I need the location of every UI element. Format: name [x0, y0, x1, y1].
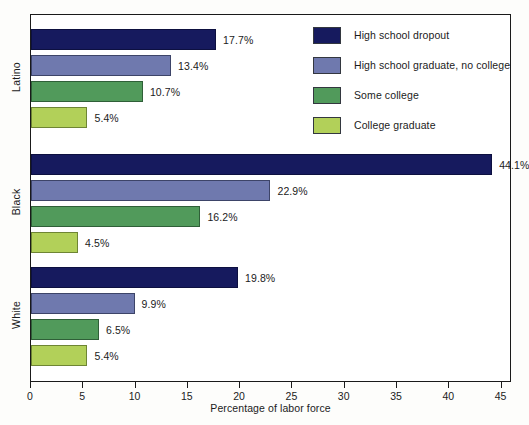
- bar[interactable]: [31, 180, 270, 201]
- x-tick-mark: [135, 382, 136, 388]
- legend-swatch-icon: [313, 117, 341, 134]
- bar-value-label: 22.9%: [277, 185, 307, 197]
- x-tick-label: 0: [27, 390, 33, 402]
- x-tick-label: 20: [233, 390, 245, 402]
- bar-value-label: 16.2%: [207, 211, 237, 223]
- x-tick-mark: [239, 382, 240, 388]
- x-tick-mark: [344, 382, 345, 388]
- bar[interactable]: [31, 107, 87, 128]
- x-tick-mark: [501, 382, 502, 388]
- bar-value-label: 9.9%: [142, 298, 166, 310]
- legend-label: Some college: [354, 89, 419, 101]
- legend-label: High school graduate, no college: [354, 59, 510, 71]
- bar-value-label: 17.7%: [223, 34, 253, 46]
- bar-value-label: 44.1%: [499, 159, 529, 171]
- x-axis-title: Percentage of labor force: [30, 402, 511, 414]
- x-tick-label: 35: [390, 390, 402, 402]
- bar-value-label: 4.5%: [85, 237, 109, 249]
- bar-row: 16.2%: [31, 206, 512, 227]
- bar[interactable]: [31, 293, 135, 314]
- bar-row: 44.1%: [31, 154, 512, 175]
- bar-value-label: 5.4%: [94, 112, 118, 124]
- bar[interactable]: [31, 232, 78, 253]
- bar-value-label: 5.4%: [94, 350, 118, 362]
- bar[interactable]: [31, 206, 200, 227]
- bar[interactable]: [31, 55, 171, 76]
- bar-value-label: 19.8%: [245, 272, 275, 284]
- bar[interactable]: [31, 29, 216, 50]
- x-tick-mark: [30, 382, 31, 388]
- legend-swatch-icon: [313, 57, 341, 74]
- bar[interactable]: [31, 319, 99, 340]
- bar-row: 9.9%: [31, 293, 512, 314]
- bar-row: 19.8%: [31, 267, 512, 288]
- bar[interactable]: [31, 267, 238, 288]
- bar-value-label: 13.4%: [178, 60, 208, 72]
- legend-item[interactable]: High school graduate, no college: [313, 50, 503, 80]
- x-tick-label: 15: [181, 390, 193, 402]
- x-tick-mark: [396, 382, 397, 388]
- x-tick-mark: [187, 382, 188, 388]
- x-tick-mark: [291, 382, 292, 388]
- bar-value-label: 6.5%: [106, 324, 130, 336]
- bar-value-label: 10.7%: [150, 86, 180, 98]
- bar-row: 22.9%: [31, 180, 512, 201]
- bar-row: 6.5%: [31, 319, 512, 340]
- category-label-latino: Latino: [10, 42, 22, 112]
- legend-item[interactable]: College graduate: [313, 110, 503, 140]
- bar[interactable]: [31, 154, 492, 175]
- legend-item[interactable]: High school dropout: [313, 20, 503, 50]
- x-tick-label: 10: [129, 390, 141, 402]
- legend-item[interactable]: Some college: [313, 80, 503, 110]
- legend-swatch-icon: [313, 87, 341, 104]
- x-tick-label: 30: [338, 390, 350, 402]
- chart-legend: High school dropoutHigh school graduate,…: [313, 20, 503, 140]
- x-tick-mark: [82, 382, 83, 388]
- legend-swatch-icon: [313, 27, 341, 44]
- x-tick-label: 25: [286, 390, 298, 402]
- x-tick-label: 40: [442, 390, 454, 402]
- bar[interactable]: [31, 81, 143, 102]
- x-tick-label: 45: [495, 390, 507, 402]
- x-tick-label: 5: [79, 390, 85, 402]
- bar-row: 5.4%: [31, 345, 512, 366]
- category-label-white: White: [10, 280, 22, 350]
- x-tick-mark: [448, 382, 449, 388]
- category-label-black: Black: [10, 167, 22, 237]
- legend-label: College graduate: [354, 119, 436, 131]
- legend-label: High school dropout: [354, 29, 449, 41]
- bar-row: 4.5%: [31, 232, 512, 253]
- bar[interactable]: [31, 345, 87, 366]
